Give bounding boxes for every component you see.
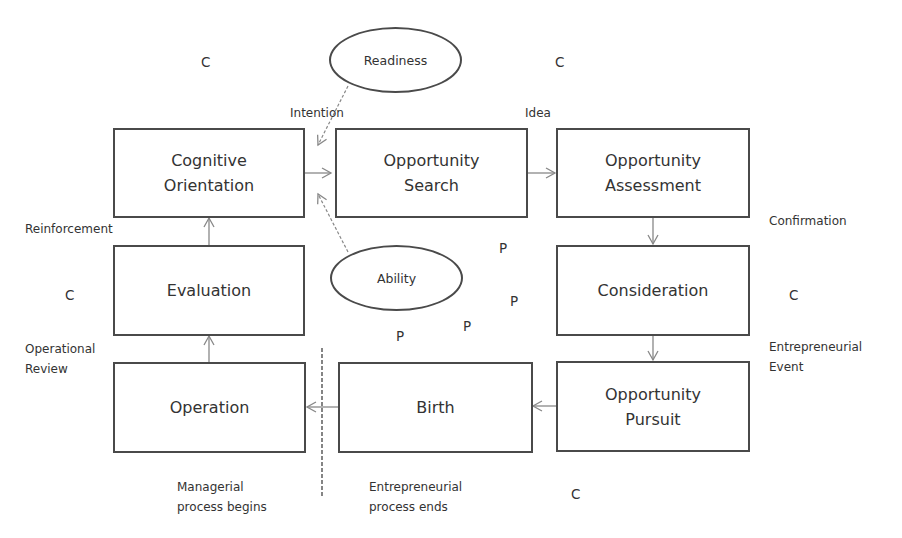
marker-p: P xyxy=(499,240,507,256)
box-opportunity-assessment: Opportunity Assessment xyxy=(556,128,750,218)
box-opportunity-pursuit: Opportunity Pursuit xyxy=(556,361,750,452)
label-entrepreneurial-event: Entrepreneurial Event xyxy=(769,337,862,377)
box-label: Opportunity Pursuit xyxy=(605,382,701,432)
ellipse-label: Readiness xyxy=(364,53,428,68)
box-label: Opportunity Assessment xyxy=(605,148,701,198)
ellipse-label: Ability xyxy=(377,271,416,286)
box-cognitive-orientation: Cognitive Orientation xyxy=(113,128,305,218)
box-operation: Operation xyxy=(113,362,306,453)
label-idea: Idea xyxy=(525,103,551,123)
box-label: Evaluation xyxy=(167,278,251,303)
box-label: Operation xyxy=(170,395,250,420)
box-label: Opportunity Search xyxy=(383,148,479,198)
box-consideration: Consideration xyxy=(556,245,750,336)
box-evaluation: Evaluation xyxy=(113,245,305,336)
label-confirmation: Confirmation xyxy=(769,211,847,231)
label-intention: Intention xyxy=(290,103,344,123)
box-birth: Birth xyxy=(338,362,533,453)
box-label: Birth xyxy=(416,395,454,420)
marker-c: C xyxy=(65,287,74,303)
marker-p: P xyxy=(396,328,404,344)
annotation-entrepreneurial-ends: Entrepreneurial process ends xyxy=(369,477,462,517)
marker-p: P xyxy=(510,293,518,309)
label-reinforcement: Reinforcement xyxy=(25,219,113,239)
ellipse-readiness: Readiness xyxy=(329,27,462,93)
marker-c: C xyxy=(571,486,580,502)
ellipse-ability: Ability xyxy=(330,245,463,311)
marker-c: C xyxy=(789,287,798,303)
box-opportunity-search: Opportunity Search xyxy=(335,128,528,218)
annotation-managerial-begins: Managerial process begins xyxy=(177,477,267,517)
label-operational-review: Operational Review xyxy=(25,339,95,379)
marker-c: C xyxy=(555,54,564,70)
marker-c: C xyxy=(201,54,210,70)
marker-p: P xyxy=(463,318,471,334)
box-label: Consideration xyxy=(598,278,709,303)
box-label: Cognitive Orientation xyxy=(164,148,254,198)
